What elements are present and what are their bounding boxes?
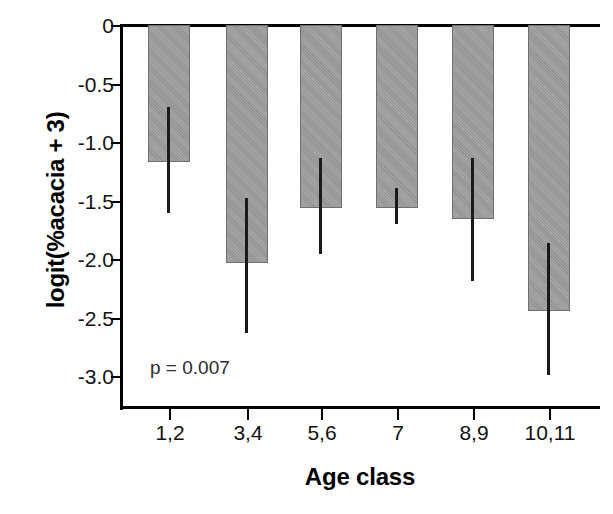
bar-chart-figure: logit(%acacia + 3) 0 -0.5 -1.0 -1.5 -2.0…	[0, 0, 613, 514]
y-tick-label: -2.0	[52, 249, 114, 270]
x-tick-mark	[169, 409, 171, 420]
x-tick-label: 10,11	[510, 422, 590, 444]
y-tick-label: -1.5	[52, 191, 114, 212]
errorbar-1-2	[167, 107, 170, 213]
x-tick-mark	[549, 409, 551, 420]
y-tick-label: -0.5	[52, 74, 114, 95]
x-axis-title: Age class	[120, 463, 600, 491]
x-tick-mark	[321, 409, 323, 420]
bar-7[interactable]	[376, 25, 418, 208]
errorbar-3-4	[245, 198, 248, 333]
x-tick-label: 8,9	[438, 422, 510, 444]
caption-strip	[0, 505, 613, 514]
x-tick-mark	[397, 409, 399, 420]
errorbar-5-6	[319, 158, 322, 254]
x-tick-label: 3,4	[212, 422, 284, 444]
y-tick-label: -2.5	[52, 308, 114, 329]
plot-area	[120, 25, 600, 408]
x-tick-label: 7	[362, 422, 434, 444]
x-tick-label: 5,6	[286, 422, 358, 444]
x-tick-mark	[473, 409, 475, 420]
y-tick-label: -1.0	[52, 132, 114, 153]
y-axis-tick-labels: 0 -0.5 -1.0 -1.5 -2.0 -2.5 -3.0	[48, 0, 114, 410]
x-tick-mark	[247, 409, 249, 420]
errorbar-10-11	[547, 243, 550, 375]
x-tick-label: 1,2	[134, 422, 206, 444]
errorbar-7	[395, 188, 398, 224]
y-tick-label: 0	[52, 15, 114, 36]
y-tick-label: -3.0	[52, 366, 114, 387]
p-value-annotation: p = 0.007	[150, 357, 230, 379]
errorbar-8-9	[471, 158, 474, 281]
